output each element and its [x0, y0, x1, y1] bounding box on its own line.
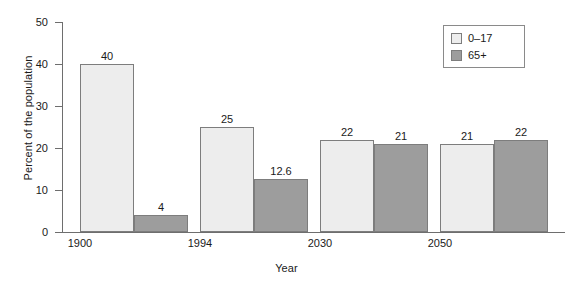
y-axis-tick-20 [55, 148, 62, 149]
legend-swatch-icon-0-17 [451, 33, 462, 44]
y-axis-tick-10 [55, 190, 62, 191]
y-axis-tick-50 [55, 22, 62, 23]
y-axis-tick-label-20: 20 [0, 143, 48, 154]
legend-label-65plus: 65+ [468, 50, 487, 61]
legend: 0–17 65+ [443, 25, 525, 68]
y-axis-tick-label-50: 50 [0, 17, 48, 28]
bar-2050-0-17[interactable]: 21 [440, 144, 494, 232]
y-axis-tick-30 [55, 106, 62, 107]
x-axis-tick-label-2050: 2050 [386, 238, 494, 249]
y-axis-tick-40 [55, 64, 62, 65]
bar-1900-65plus[interactable]: 4 [134, 215, 188, 232]
y-axis-tick-label-0: 0 [0, 227, 48, 238]
legend-item-65plus[interactable]: 65+ [451, 48, 517, 62]
legend-item-0-17[interactable]: 0–17 [451, 31, 517, 45]
bar-value-2050-65plus: 22 [515, 127, 527, 138]
y-axis-tick-label-10: 10 [0, 185, 48, 196]
bar-2030-65plus[interactable]: 21 [374, 144, 428, 232]
bar-1994-0-17[interactable]: 25 [200, 127, 254, 232]
y-axis-tick-label-30: 30 [0, 101, 48, 112]
bar-1994-65plus[interactable]: 12.6 [254, 179, 308, 232]
legend-label-0-17: 0–17 [468, 33, 492, 44]
x-axis-tick-label-1900: 1900 [26, 238, 134, 249]
bar-value-1900-0-17: 40 [101, 51, 113, 62]
x-axis-tick-label-1994: 1994 [146, 238, 254, 249]
x-axis-tick-label-2030: 2030 [266, 238, 374, 249]
y-axis-title: Percent of the population [22, 28, 34, 208]
bar-value-1900-65plus: 4 [158, 202, 164, 213]
x-axis-title: Year [0, 262, 573, 274]
bar-2030-0-17[interactable]: 22 [320, 140, 374, 232]
bar-value-1994-0-17: 25 [221, 114, 233, 125]
y-axis-tick-0 [55, 232, 62, 233]
bar-value-2030-65plus: 21 [395, 131, 407, 142]
bar-value-1994-65plus: 12.6 [270, 166, 291, 177]
bar-chart: Percent of the population 0 10 20 30 40 … [0, 0, 573, 287]
bar-value-2030-0-17: 22 [341, 127, 353, 138]
x-axis-line [62, 232, 565, 233]
bar-1900-0-17[interactable]: 40 [80, 64, 134, 232]
bar-value-2050-0-17: 21 [461, 131, 473, 142]
legend-swatch-icon-65plus [451, 50, 462, 61]
bar-2050-65plus[interactable]: 22 [494, 140, 548, 232]
y-axis-tick-label-40: 40 [0, 59, 48, 70]
